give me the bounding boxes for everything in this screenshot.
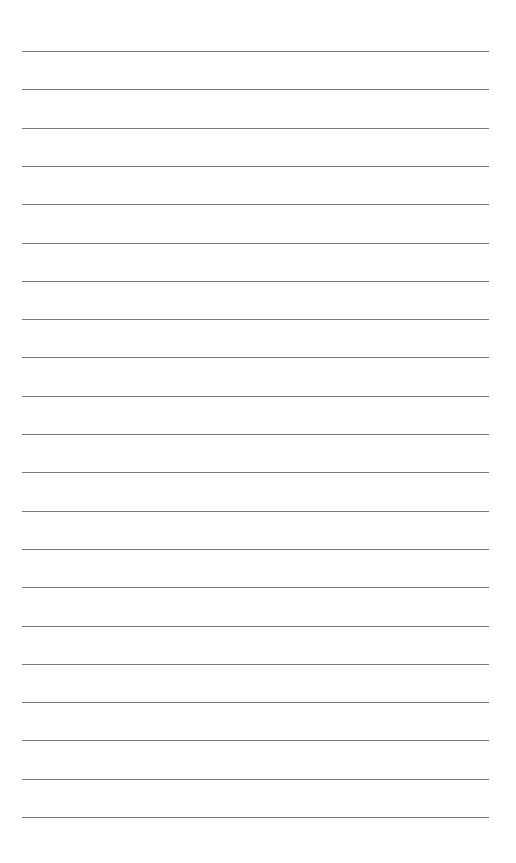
ruled-line bbox=[22, 434, 489, 435]
ruled-line bbox=[22, 817, 489, 818]
ruled-line bbox=[22, 587, 489, 588]
ruled-line bbox=[22, 549, 489, 550]
ruled-line bbox=[22, 204, 489, 205]
ruled-line bbox=[22, 243, 489, 244]
ruled-line bbox=[22, 319, 489, 320]
ruled-line bbox=[22, 396, 489, 397]
ruled-line bbox=[22, 51, 489, 52]
lined-paper-page bbox=[0, 0, 516, 863]
ruled-line bbox=[22, 128, 489, 129]
ruled-line bbox=[22, 626, 489, 627]
ruled-line bbox=[22, 281, 489, 282]
ruled-line bbox=[22, 89, 489, 90]
ruled-line bbox=[22, 472, 489, 473]
ruled-line bbox=[22, 779, 489, 780]
ruled-line bbox=[22, 511, 489, 512]
ruled-line bbox=[22, 740, 489, 741]
ruled-line bbox=[22, 166, 489, 167]
ruled-line bbox=[22, 702, 489, 703]
ruled-line bbox=[22, 357, 489, 358]
ruled-line bbox=[22, 664, 489, 665]
